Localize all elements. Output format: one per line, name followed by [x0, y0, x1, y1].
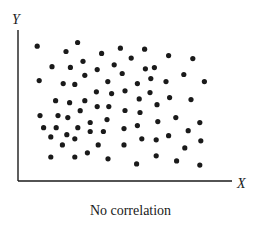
data-point	[154, 137, 159, 142]
data-point	[48, 154, 53, 159]
data-point	[82, 73, 87, 78]
data-point	[82, 98, 87, 103]
data-point	[53, 98, 58, 103]
data-point	[95, 104, 100, 109]
data-point	[154, 153, 159, 158]
data-point	[109, 91, 114, 96]
data-point	[155, 119, 160, 124]
data-point	[188, 97, 193, 102]
data-point	[95, 67, 100, 72]
data-point	[167, 95, 172, 100]
data-point	[106, 104, 111, 109]
data-point	[122, 108, 127, 113]
data-point	[94, 89, 99, 94]
data-point	[186, 128, 191, 133]
data-point	[137, 96, 142, 101]
data-point	[190, 56, 195, 61]
data-point	[65, 115, 70, 120]
data-point	[120, 71, 125, 76]
data-point	[148, 76, 153, 81]
data-point	[49, 64, 54, 69]
data-point	[163, 79, 168, 84]
x-axis-label: X	[236, 176, 246, 191]
data-point	[122, 88, 127, 93]
data-point	[78, 108, 83, 113]
data-point	[48, 134, 53, 139]
y-axis-label: Y	[12, 12, 22, 27]
data-point	[80, 59, 85, 64]
data-point	[121, 126, 126, 131]
data-point	[88, 120, 93, 125]
data-point	[135, 123, 140, 128]
data-point	[72, 82, 77, 87]
data-point	[129, 56, 134, 61]
data-point	[166, 53, 171, 58]
data-point	[64, 132, 69, 137]
data-point	[166, 133, 171, 138]
data-point	[72, 136, 77, 141]
scatter-plot: Y X	[0, 0, 261, 229]
data-point	[75, 40, 80, 45]
data-point	[174, 158, 179, 163]
data-point	[135, 81, 140, 86]
data-point	[54, 125, 59, 130]
data-point	[63, 49, 68, 54]
data-point	[61, 81, 66, 86]
data-point	[105, 156, 110, 161]
data-point	[121, 142, 126, 147]
data-point	[96, 142, 101, 147]
data-point	[182, 145, 187, 150]
data-point	[104, 117, 109, 122]
data-point	[105, 79, 110, 84]
data-point	[197, 120, 202, 125]
data-point	[202, 79, 207, 84]
data-point	[60, 142, 65, 147]
data-point	[85, 150, 90, 155]
data-point	[68, 65, 73, 70]
data-point	[88, 129, 93, 134]
data-point	[152, 65, 157, 70]
data-point	[35, 44, 40, 49]
data-point	[55, 113, 60, 118]
data-point	[37, 113, 42, 118]
data-point	[72, 154, 77, 159]
data-point	[75, 125, 80, 130]
data-point	[37, 78, 42, 83]
data-point	[99, 51, 104, 56]
data-point	[137, 110, 142, 115]
chart-caption: No correlation	[0, 203, 261, 219]
data-point	[134, 161, 139, 166]
data-point	[142, 47, 147, 52]
data-point	[143, 66, 148, 71]
data-point	[147, 90, 152, 95]
data-point	[118, 46, 123, 51]
data-point	[198, 138, 203, 143]
data-point	[112, 62, 117, 67]
data-point	[154, 102, 159, 107]
data-point	[101, 129, 106, 134]
data-point	[41, 125, 46, 130]
data-point	[139, 136, 144, 141]
data-points	[35, 40, 207, 168]
data-point	[67, 100, 72, 105]
data-point	[173, 115, 178, 120]
data-point	[197, 163, 202, 168]
data-point	[181, 72, 186, 77]
